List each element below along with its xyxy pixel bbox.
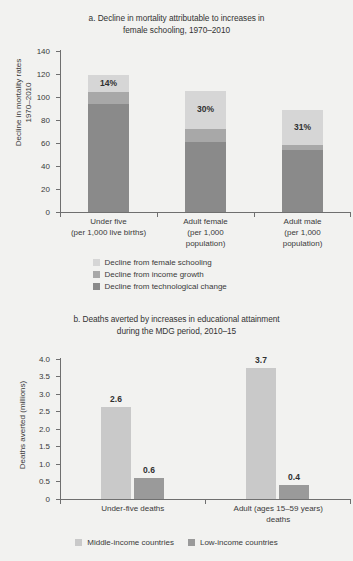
chart-b-y-axis-title-text: Deaths averted (millions) [18, 355, 28, 495]
chart-a-category-adult-male-line2: (per 1,000 [257, 227, 348, 238]
chart-a-ylabel-140: 140 [37, 47, 50, 56]
chart-a-ylabel-20: 20 [41, 185, 50, 194]
chart-a-category-under-five: Under five (per 1,000 live births) [60, 216, 157, 249]
chart-b-category-under-five-deaths: Under-five deaths [60, 503, 206, 525]
chart-b-category-under-five-deaths-line1: Under-five deaths [63, 503, 203, 514]
chart-b-ylabel-2-5: 2.5 [39, 407, 50, 416]
chart-b-legend-item-low-income[interactable]: Low-income countries [188, 538, 278, 547]
chart-a-seg-female-schooling-under-five: 14% [88, 75, 129, 92]
chart-b-category-labels: Under-five deaths Adult (ages 15–59 year… [60, 503, 351, 525]
chart-a-bargroup-adult-male: 31% [254, 110, 351, 212]
chart-b-ylabel-1-5: 1.5 [39, 442, 50, 451]
chart-a-category-adult-female-line3: population) [160, 238, 251, 249]
chart-a-bar-under-five[interactable]: 14% [88, 75, 129, 212]
chart-b-ylabel-4-0: 4.0 [39, 355, 50, 364]
chart-b-category-adult-deaths-line2: deaths [209, 514, 349, 525]
chart-a-seg-technological-change-under-five [88, 104, 129, 212]
chart-b-legend-item-middle-income[interactable]: Middle-income countries [75, 538, 174, 547]
chart-a-legend: Decline from female schooling Decline fr… [0, 258, 353, 291]
chart-b-ylabel-2-0: 2.0 [39, 425, 50, 434]
chart-a-bargroup-adult-female: 30% [157, 91, 254, 212]
chart-b-value-low-income-adult: 0.4 [271, 472, 317, 482]
chart-b-value-middle-income-adult: 3.7 [238, 355, 284, 365]
legend-swatch-icon-technological-change [93, 283, 100, 290]
legend-swatch-icon-low-income [188, 539, 195, 546]
chart-b-value-middle-income-under-five: 2.6 [93, 394, 139, 404]
chart-b-ylabel-3-0: 3.0 [39, 390, 50, 399]
chart-b-bar-low-income-adult[interactable]: 0.4 [279, 485, 309, 499]
chart-b-category-adult-deaths-line1: Adult (ages 15–59 years) [209, 503, 349, 514]
chart-b-legend: Middle-income countries Low-income count… [0, 538, 353, 547]
chart-a-legend-label-technological-change: Decline from technological change [105, 282, 227, 291]
chart-a-category-adult-female-line2: (per 1,000 [160, 227, 251, 238]
legend-swatch-icon-income-growth [93, 271, 100, 278]
chart-a-ylabel-80: 80 [41, 116, 50, 125]
chart-a-plot-area: 140 120 100 80 60 40 20 0 14% 30% [60, 50, 351, 213]
chart-a-seg-female-schooling-adult-male: 31% [282, 110, 323, 145]
chart-b-ytick-4-0: 4.0 [56, 359, 60, 360]
chart-a-title-line1: a. Decline in mortality attributable to … [26, 13, 327, 25]
chart-b-ytick-3-0: 3.0 [56, 394, 60, 395]
chart-a-pct-under-five: 14% [88, 78, 129, 88]
chart-a-ylabel-40: 40 [41, 162, 50, 171]
chart-b-legend-label-middle-income: Middle-income countries [87, 538, 174, 547]
chart-a-legend-label-income-growth: Decline from income growth [105, 270, 204, 279]
chart-b-ylabel-0: 0 [46, 495, 50, 504]
chart-a-seg-income-growth-under-five [88, 92, 129, 104]
chart-b-plot-area: 4.0 3.5 3.0 2.5 2.0 1.5 1.0 0.5 0 2.6 0.… [60, 358, 351, 500]
chart-b-ytick-3-5: 3.5 [56, 376, 60, 377]
legend-swatch-icon-female-schooling [93, 259, 100, 266]
chart-b-value-low-income-under-five: 0.6 [126, 465, 172, 475]
chart-a-x-axis [60, 212, 351, 213]
chart-b-bargroup-under-five-deaths: 2.6 0.6 [60, 407, 205, 499]
chart-b-category-adult-deaths: Adult (ages 15–59 years) deaths [206, 503, 352, 525]
chart-a-category-under-five-line1: Under five [63, 216, 154, 227]
chart-a-seg-female-schooling-adult-female: 30% [185, 91, 226, 129]
chart-a-category-adult-male-line1: Adult male [257, 216, 348, 227]
chart-a-legend-item-technological-change[interactable]: Decline from technological change [93, 282, 261, 291]
chart-a-seg-income-growth-adult-female [185, 129, 226, 142]
chart-a-y-axis-title-line1: Decline in mortality rates [14, 25, 24, 180]
chart-b-bargroup-adult-deaths: 3.7 0.4 [205, 368, 350, 499]
chart-b-title-line1: b. Deaths averted by increases in educat… [26, 314, 327, 326]
legend-swatch-icon-middle-income [75, 539, 82, 546]
chart-b-title-line2: during the MDG period, 2010–15 [26, 326, 327, 338]
chart-a-ylabel-100: 100 [37, 93, 50, 102]
chart-panel-a: a. Decline in mortality attributable to … [0, 0, 353, 300]
chart-a-category-adult-female: Adult female (per 1,000 population) [157, 216, 254, 249]
chart-a-ytick-140: 140 [56, 51, 60, 52]
chart-b-bar-low-income-under-five[interactable]: 0.6 [134, 478, 164, 499]
chart-a-bar-adult-male[interactable]: 31% [282, 110, 323, 212]
chart-b-title: b. Deaths averted by increases in educat… [0, 305, 353, 337]
chart-a-ylabel-120: 120 [37, 70, 50, 79]
chart-b-ylabel-1-0: 1.0 [39, 460, 50, 469]
chart-b-y-axis-title: Deaths averted (millions) [18, 355, 28, 495]
chart-a-title-line2: female schooling, 1970–2010 [26, 25, 327, 37]
chart-a-title: a. Decline in mortality attributable to … [0, 0, 353, 36]
chart-a-y-axis-title-line2: 1970–2010 [24, 25, 34, 180]
chart-b-legend-label-low-income: Low-income countries [200, 538, 278, 547]
chart-a-pct-adult-female: 30% [185, 104, 226, 114]
chart-a-seg-technological-change-adult-male [282, 150, 323, 212]
chart-a-ylabel-60: 60 [41, 139, 50, 148]
chart-b-ylabel-3-5: 3.5 [39, 372, 50, 381]
chart-a-category-adult-male-line3: population) [257, 238, 348, 249]
chart-a-category-adult-male: Adult male (per 1,000 population) [254, 216, 351, 249]
chart-a-seg-technological-change-adult-female [185, 142, 226, 212]
chart-a-category-labels: Under five (per 1,000 live births) Adult… [60, 216, 351, 249]
chart-a-pct-adult-male: 31% [282, 122, 323, 132]
chart-a-ylabel-0: 0 [46, 208, 50, 217]
chart-a-bar-adult-female[interactable]: 30% [185, 91, 226, 212]
chart-a-legend-item-income-growth[interactable]: Decline from income growth [93, 270, 261, 279]
chart-a-category-adult-female-line1: Adult female [160, 216, 251, 227]
chart-a-category-under-five-line2: (per 1,000 live births) [63, 227, 154, 238]
chart-a-legend-label-female-schooling: Decline from female schooling [105, 258, 212, 267]
chart-b-ylabel-0-5: 0.5 [39, 477, 50, 486]
chart-a-legend-item-female-schooling[interactable]: Decline from female schooling [93, 258, 261, 267]
chart-b-bar-middle-income-under-five[interactable]: 2.6 [101, 407, 131, 499]
chart-a-y-axis-title: Decline in mortality rates 1970–2010 [14, 25, 34, 180]
chart-a-bargroup-under-five: 14% [60, 75, 157, 212]
